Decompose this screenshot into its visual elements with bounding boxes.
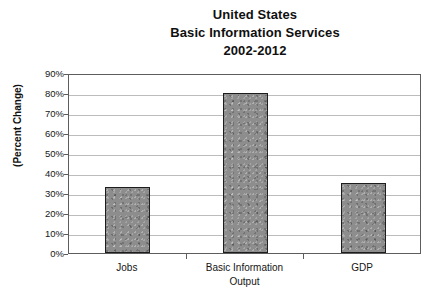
y-axis-tick-label: 0% bbox=[30, 249, 64, 259]
chart-title-line-3: 2002-2012 bbox=[60, 42, 442, 60]
y-axis-tick-mark bbox=[64, 134, 68, 135]
x-axis-tick-mark bbox=[303, 254, 304, 259]
y-axis-tick-label: 60% bbox=[30, 129, 64, 139]
y-axis-tick-label: 80% bbox=[30, 89, 64, 99]
plot-area bbox=[68, 74, 421, 254]
y-axis-title: (Percent Change) bbox=[12, 76, 23, 176]
y-axis-tick-mark bbox=[64, 254, 68, 255]
y-axis-tick-mark bbox=[64, 174, 68, 175]
x-axis-tick-label: Jobs bbox=[68, 261, 186, 274]
y-axis-tick-mark bbox=[64, 114, 68, 115]
bars-layer bbox=[69, 75, 420, 253]
y-axis-tick-mark bbox=[64, 234, 68, 235]
x-axis-tick-mark bbox=[186, 254, 187, 259]
y-axis-tick-label: 70% bbox=[30, 109, 64, 119]
y-axis-tick-label: 50% bbox=[30, 149, 64, 159]
x-axis-title: Output bbox=[68, 275, 421, 288]
bar-jobs bbox=[105, 187, 150, 253]
y-axis-tick-label: 90% bbox=[30, 69, 64, 79]
chart-title-line-2: Basic Information Services bbox=[60, 24, 442, 42]
y-axis-tick-mark bbox=[64, 214, 68, 215]
y-axis-tick-mark bbox=[64, 154, 68, 155]
y-axis-tick-label: 40% bbox=[30, 169, 64, 179]
y-axis-tick-label: 30% bbox=[30, 189, 64, 199]
bar-chart-figure: United States Basic Information Services… bbox=[0, 0, 442, 306]
bar-gdp bbox=[341, 183, 386, 253]
x-axis-tick-label: Basic Information bbox=[186, 261, 304, 274]
y-axis-tick-mark bbox=[64, 94, 68, 95]
y-axis-tick-labels: 0%10%20%30%40%50%60%70%80%90% bbox=[30, 74, 64, 254]
x-axis-tick-label: GDP bbox=[303, 261, 421, 274]
y-axis-tick-mark bbox=[64, 194, 68, 195]
bar-basic-information bbox=[223, 93, 268, 253]
y-axis-tick-label: 20% bbox=[30, 209, 64, 219]
y-axis-tick-label: 10% bbox=[30, 229, 64, 239]
chart-title-line-1: United States bbox=[60, 6, 442, 24]
y-axis-tick-mark bbox=[64, 74, 68, 75]
chart-title: United States Basic Information Services… bbox=[60, 6, 442, 60]
